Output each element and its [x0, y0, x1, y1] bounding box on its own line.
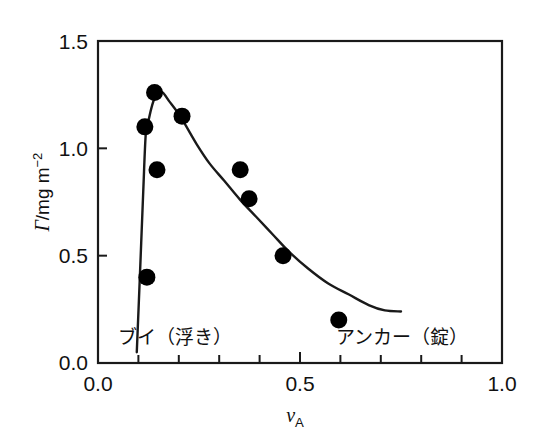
data-point-marker	[275, 247, 292, 264]
data-point-marker	[232, 161, 249, 178]
x-tick-label-1_0: 1.0	[467, 372, 537, 396]
nu-symbol: ν	[286, 404, 295, 426]
data-point-markers	[136, 84, 347, 329]
data-point-marker	[148, 161, 165, 178]
data-point-marker	[241, 190, 258, 207]
y-tick-label-1_5: 1.5	[18, 30, 88, 54]
data-point-marker	[136, 118, 153, 135]
fit-curve	[137, 91, 401, 352]
x-axis-subscript: A	[295, 415, 304, 430]
y-axis-exponent: −2	[30, 153, 45, 168]
annotation-anchor: アンカー（錠）	[336, 322, 468, 349]
y-axis-ticks	[98, 148, 107, 255]
gamma-symbol: Γ	[31, 220, 53, 231]
data-point-marker	[174, 108, 191, 125]
x-axis-title: νA	[235, 404, 355, 430]
y-axis-unit: /mg m	[32, 167, 53, 220]
x-axis-ticks	[138, 352, 461, 363]
x-tick-label-0_0: 0.0	[63, 372, 133, 396]
annotation-buoy: ブイ（浮き）	[118, 322, 232, 349]
data-point-marker	[138, 269, 155, 286]
y-axis-title: Γ/mg m−2	[30, 122, 54, 262]
surface-excess-chart: 1.5 1.0 0.5 0.0 0.0 0.5 1.0 Γ/mg m−2 νA …	[0, 0, 541, 446]
x-tick-label-0_5: 0.5	[265, 372, 335, 396]
data-point-marker	[146, 84, 163, 101]
